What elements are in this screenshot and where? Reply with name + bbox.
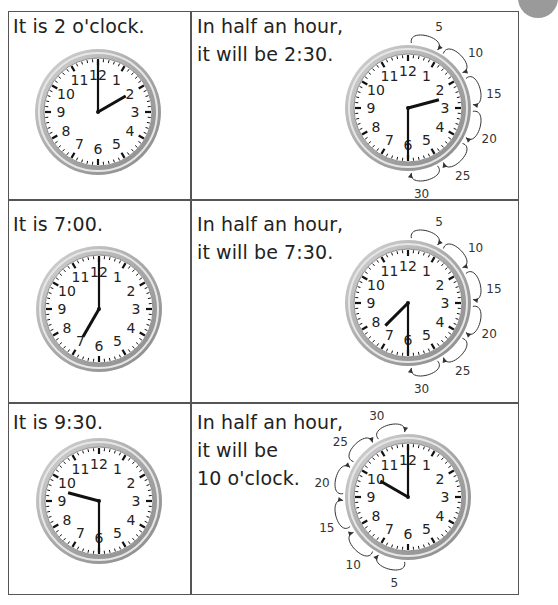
svg-text:7: 7 bbox=[385, 521, 394, 537]
svg-text:6: 6 bbox=[404, 526, 413, 542]
svg-text:30: 30 bbox=[369, 409, 384, 423]
svg-text:5: 5 bbox=[422, 521, 431, 537]
svg-text:10: 10 bbox=[346, 558, 361, 572]
svg-text:11: 11 bbox=[381, 457, 399, 473]
svg-text:1: 1 bbox=[422, 457, 431, 473]
svg-text:5: 5 bbox=[391, 576, 399, 590]
svg-text:15: 15 bbox=[319, 521, 334, 535]
svg-text:20: 20 bbox=[314, 476, 329, 490]
svg-text:3: 3 bbox=[441, 489, 450, 505]
svg-text:8: 8 bbox=[371, 508, 380, 524]
svg-text:2: 2 bbox=[436, 471, 445, 487]
svg-text:25: 25 bbox=[333, 435, 348, 449]
svg-text:9: 9 bbox=[367, 489, 376, 505]
svg-text:4: 4 bbox=[436, 508, 445, 524]
